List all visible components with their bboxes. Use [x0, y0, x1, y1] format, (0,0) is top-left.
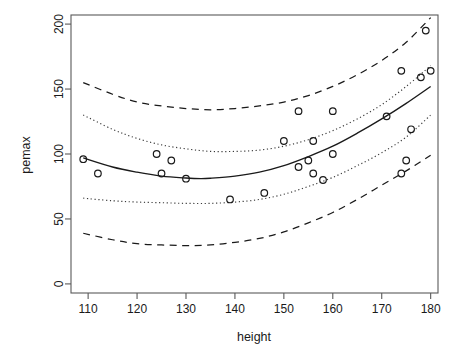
- scatter-plot-figure: 110120130140150160170180 050100150200 he…: [0, 0, 454, 352]
- curve-prediction-band-upper: [83, 18, 430, 110]
- y-tick-label-50: 50: [52, 212, 66, 226]
- data-point: [403, 157, 410, 164]
- x-axis-ticks: [88, 293, 431, 299]
- x-tick-label-140: 140: [225, 302, 245, 316]
- x-tick-label-110: 110: [79, 302, 98, 316]
- data-point: [295, 108, 302, 115]
- curve-prediction-band-lower: [83, 155, 430, 245]
- curve-confidence-band-upper: [83, 66, 430, 152]
- x-tick-label-130: 130: [176, 302, 196, 316]
- y-tick-label-0: 0: [52, 280, 66, 287]
- data-point: [329, 151, 336, 158]
- x-tick-label-150: 150: [274, 302, 294, 316]
- data-point: [310, 138, 317, 145]
- data-point: [305, 157, 312, 164]
- curve-confidence-band-lower: [83, 115, 430, 203]
- data-point: [95, 170, 102, 177]
- plot-frame: [71, 15, 438, 293]
- data-point: [408, 126, 415, 133]
- data-point: [295, 164, 302, 171]
- data-point: [281, 138, 288, 145]
- y-axis-title: pemax: [19, 135, 33, 173]
- data-point: [418, 74, 425, 81]
- curve-quadratic-fit: [83, 86, 430, 178]
- data-point: [227, 196, 234, 203]
- y-tick-label-150: 150: [52, 79, 66, 99]
- x-axis-title: height: [237, 330, 272, 344]
- data-point: [398, 170, 405, 177]
- data-point: [261, 190, 268, 197]
- y-axis-tick-labels: 050100150200: [52, 14, 66, 287]
- data-point: [168, 157, 175, 164]
- x-tick-label-180: 180: [421, 302, 441, 316]
- data-point: [320, 177, 327, 184]
- data-point: [422, 27, 429, 34]
- x-tick-label-120: 120: [127, 302, 147, 316]
- regression-curves: [83, 18, 430, 246]
- data-point: [398, 68, 405, 75]
- y-tick-label-100: 100: [52, 144, 66, 164]
- y-tick-label-200: 200: [52, 14, 66, 34]
- data-point: [310, 170, 317, 177]
- x-tick-label-170: 170: [372, 302, 392, 316]
- x-axis-tick-labels: 110120130140150160170180: [79, 302, 441, 316]
- x-tick-label-160: 160: [323, 302, 343, 316]
- data-point: [427, 68, 434, 75]
- data-point: [329, 108, 336, 115]
- plot-canvas: 110120130140150160170180 050100150200 he…: [0, 0, 454, 352]
- data-points: [80, 27, 434, 202]
- data-point: [153, 151, 160, 158]
